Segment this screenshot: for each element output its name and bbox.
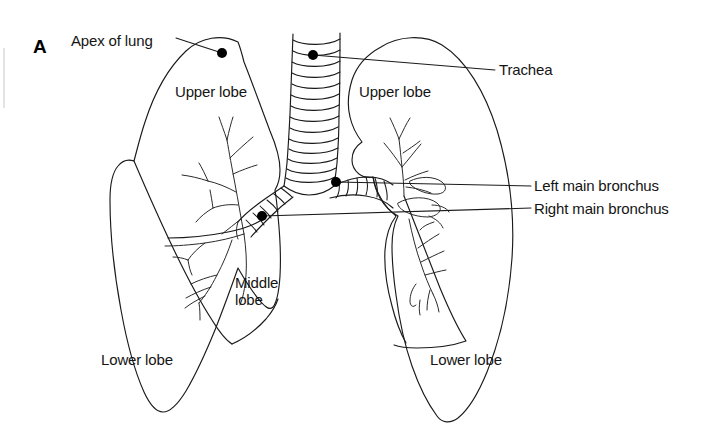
dot-left-main-bronchus xyxy=(331,177,341,187)
label-upper-lobe-left: Upper lobe xyxy=(175,83,247,100)
label-right-main-bronchus: Right main bronchus xyxy=(534,200,669,217)
callout-marker-dots xyxy=(217,48,341,221)
right-main-bronchus-rings xyxy=(246,188,292,232)
label-lower-lobe-left: Lower lobe xyxy=(101,351,173,368)
trachea-cartilage-rings xyxy=(286,39,340,182)
label-left-main-bronchus: Left main bronchus xyxy=(534,177,659,194)
label-apex-of-lung: Apex of lung xyxy=(71,32,153,49)
left-lung-horizontal-fissure xyxy=(168,219,263,238)
trachea-right-wall xyxy=(334,33,340,186)
leader-left-main-bronchus xyxy=(336,182,531,186)
carina xyxy=(284,186,334,195)
dot-trachea xyxy=(308,50,318,60)
trachea-left-wall xyxy=(284,34,293,186)
label-lower-lobe-right: Lower lobe xyxy=(430,351,502,368)
dot-right-main-bronchus xyxy=(257,211,267,221)
lung-anatomy-figure: A Apex of lung Trachea Upper lobe Upper … xyxy=(0,0,725,430)
label-middle-lobe: Middle lobe xyxy=(235,274,278,308)
left-main-bronchus-lower-wall xyxy=(330,195,393,208)
dot-apex-of-lung xyxy=(217,48,227,58)
label-trachea: Trachea xyxy=(499,61,552,78)
label-upper-lobe-right: Upper lobe xyxy=(359,83,431,100)
main-bronchi-group xyxy=(237,177,394,239)
leader-apex-of-lung xyxy=(176,38,222,53)
panel-letter: A xyxy=(33,36,47,58)
right-lung-oblique-fissure xyxy=(394,196,466,348)
left-lung-oblique-fissure xyxy=(134,161,232,344)
